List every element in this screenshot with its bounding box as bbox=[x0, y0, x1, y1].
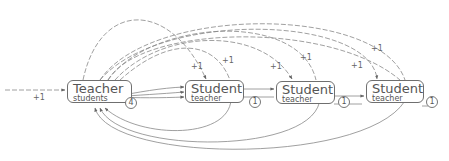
edge-label: +1 bbox=[300, 54, 312, 62]
edge-label: +1 bbox=[270, 63, 282, 71]
edge-label: +1 bbox=[371, 45, 383, 53]
edge-arc-1 bbox=[83, 20, 206, 80]
node-field: students bbox=[73, 95, 108, 103]
node-student-1[interactable]: Student teacher bbox=[185, 80, 244, 103]
edge-label-incoming: +1 bbox=[33, 94, 45, 102]
edge-label: +1 bbox=[222, 57, 234, 65]
node-student-2[interactable]: Student teacher bbox=[276, 81, 335, 104]
edge-label: +1 bbox=[191, 63, 203, 71]
edge-label: +1 bbox=[351, 62, 363, 70]
node-student-3[interactable]: Student teacher bbox=[366, 80, 424, 103]
node-field: teacher bbox=[282, 96, 313, 104]
diagram-canvas: +1 +1 +1 +1 +1 +1 +1 Teacher students 4 … bbox=[0, 0, 449, 161]
node-field: teacher bbox=[191, 95, 222, 103]
edge-arc-2 bbox=[100, 24, 405, 80]
count-badge: 1 bbox=[338, 96, 350, 108]
count-badge: 1 bbox=[426, 96, 438, 108]
node-field: teacher bbox=[372, 95, 403, 103]
count-badge: 4 bbox=[125, 97, 137, 109]
edge-arc-7 bbox=[108, 37, 400, 80]
count-badge: 1 bbox=[249, 96, 261, 108]
node-teacher[interactable]: Teacher students bbox=[67, 80, 132, 103]
